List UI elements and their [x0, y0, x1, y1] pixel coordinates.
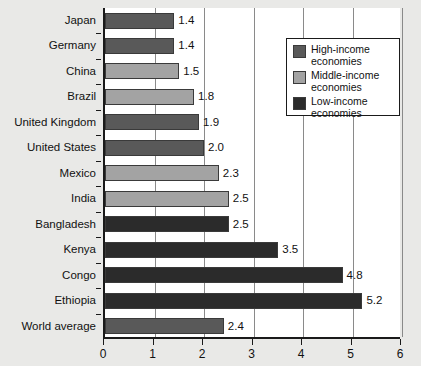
legend-swatch-icon [293, 71, 306, 84]
bar[interactable] [105, 165, 219, 181]
y-axis-tick [96, 212, 101, 213]
category-label: Ethiopia [0, 288, 96, 313]
category-label: Kenya [0, 237, 96, 262]
category-label: Germany [0, 33, 96, 58]
category-label: Japan [0, 8, 96, 33]
y-axis-tick [96, 135, 101, 136]
bar[interactable] [105, 267, 343, 283]
legend: High-income economiesMiddle-income econo… [286, 38, 400, 116]
category-label: United Kingdom [0, 110, 96, 135]
legend-label: Middle-income economies [311, 70, 379, 93]
legend-swatch-icon [293, 45, 306, 58]
gridline-6 [402, 8, 403, 337]
bar-value-label: 3.5 [282, 240, 298, 258]
x-axis-tick [153, 339, 154, 345]
category-label: China [0, 59, 96, 84]
bar[interactable] [105, 63, 179, 79]
y-axis-tick [96, 161, 101, 162]
x-axis-tick-label: 5 [336, 347, 366, 361]
x-axis-tick [351, 339, 352, 345]
bar-row: 5.2 [105, 288, 400, 313]
y-axis-tick [96, 33, 101, 34]
y-axis-tick [96, 263, 101, 264]
legend-label: High-income economies [311, 44, 370, 67]
bar-value-label: 1.9 [203, 113, 219, 131]
legend-item-middle-income[interactable]: Middle-income economies [293, 70, 399, 93]
fertility-rate-bar-chart: 1.41.41.51.81.92.02.32.52.53.54.85.22.4 … [0, 0, 421, 366]
bar-value-label: 1.4 [178, 36, 194, 54]
x-axis-tick-label: 0 [88, 347, 118, 361]
bar-value-label: 1.8 [198, 87, 214, 105]
bar[interactable] [105, 38, 174, 54]
legend-label: Low-income economies [311, 96, 368, 119]
y-axis-tick [96, 237, 101, 238]
y-axis-tick [96, 59, 101, 60]
category-label: Brazil [0, 84, 96, 109]
bar-row: 1.4 [105, 8, 400, 33]
x-axis-tick-label: 1 [138, 347, 168, 361]
x-axis-tick-label: 3 [237, 347, 267, 361]
bar[interactable] [105, 293, 362, 309]
legend-item-high-income[interactable]: High-income economies [293, 44, 399, 67]
x-axis-tick [301, 339, 302, 345]
bar[interactable] [105, 13, 174, 29]
bar-row: 4.8 [105, 263, 400, 288]
y-axis-tick [96, 84, 101, 85]
category-label: United States [0, 135, 96, 160]
bar-value-label: 2.5 [233, 189, 249, 207]
x-axis-tick-label: 4 [286, 347, 316, 361]
x-axis-tick [400, 339, 401, 345]
bar-row: 2.0 [105, 135, 400, 160]
bar-value-label: 1.4 [178, 11, 194, 29]
x-axis-tick [252, 339, 253, 345]
bar[interactable] [105, 191, 229, 207]
legend-item-low-income[interactable]: Low-income economies [293, 96, 399, 119]
category-label: Congo [0, 263, 96, 288]
bar[interactable] [105, 140, 204, 156]
y-axis-tick [96, 186, 101, 187]
category-label: Bangladesh [0, 212, 96, 237]
bar[interactable] [105, 216, 229, 232]
x-axis-tick [202, 339, 203, 345]
bar-value-label: 4.8 [347, 266, 363, 284]
bar-value-label: 2.3 [223, 164, 239, 182]
bar-value-label: 5.2 [366, 291, 382, 309]
category-label: Mexico [0, 161, 96, 186]
bar[interactable] [105, 318, 224, 334]
bar-value-label: 2.5 [233, 215, 249, 233]
x-axis-tick-label: 6 [385, 347, 415, 361]
bar[interactable] [105, 242, 278, 258]
bar-row: 2.5 [105, 186, 400, 211]
x-axis-tick-label: 2 [187, 347, 217, 361]
bar-row: 2.3 [105, 161, 400, 186]
bar-row: 2.5 [105, 212, 400, 237]
y-axis-tick [96, 314, 101, 315]
bar-row: 2.4 [105, 314, 400, 339]
x-axis-tick [103, 339, 104, 345]
y-axis-tick [96, 110, 101, 111]
category-label: India [0, 186, 96, 211]
y-axis-tick [96, 288, 101, 289]
category-label: World average [0, 314, 96, 339]
bar-row: 3.5 [105, 237, 400, 262]
bar-value-label: 2.0 [208, 138, 224, 156]
bar-value-label: 1.5 [183, 62, 199, 80]
bar-value-label: 2.4 [228, 317, 244, 335]
bar[interactable] [105, 89, 194, 105]
bar[interactable] [105, 114, 199, 130]
legend-swatch-icon [293, 97, 306, 110]
